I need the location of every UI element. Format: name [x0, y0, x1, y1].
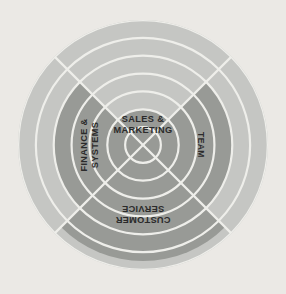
- quadrant-label-line: MARKETING: [114, 125, 173, 135]
- quadrant-label-line: TEAM: [196, 132, 206, 158]
- quadrant-label-customer-service: CUSTOMERSERVICE: [115, 204, 170, 225]
- quadrant-label-line: FINANCE &: [79, 118, 89, 171]
- quadrant-label-team: TEAM: [196, 132, 206, 158]
- quadrant-label-line: SALES &: [122, 114, 164, 124]
- performance-wheel-chart: SALES &MARKETINGTEAMCUSTOMERSERVICEFINAN…: [0, 0, 286, 294]
- wheel-svg: SALES &MARKETINGTEAMCUSTOMERSERVICEFINAN…: [0, 0, 286, 294]
- quadrant-label-sales-marketing: SALES &MARKETING: [114, 114, 173, 135]
- quadrant-label-line: CUSTOMER: [115, 215, 170, 225]
- quadrant-label-finance-systems: FINANCE &SYSTEMS: [79, 118, 100, 171]
- quadrant-label-line: SYSTEMS: [90, 122, 100, 168]
- quadrant-label-line: SERVICE: [122, 204, 165, 214]
